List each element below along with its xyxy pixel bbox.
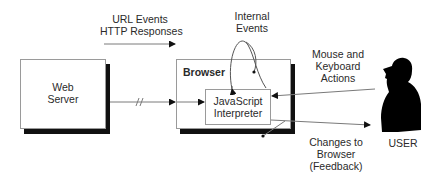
url-events-label: URL Events HTTP Responses: [100, 13, 180, 37]
changes-feedback-label: Changes to Browser (Feedback): [306, 136, 366, 172]
user-silhouette-icon: [381, 58, 421, 132]
internal-events-label: Internal Events: [226, 10, 278, 34]
mouse-keyboard-label: Mouse and Keyboard Actions: [308, 48, 368, 84]
user-label: USER: [383, 137, 423, 149]
connectors: [0, 0, 435, 178]
